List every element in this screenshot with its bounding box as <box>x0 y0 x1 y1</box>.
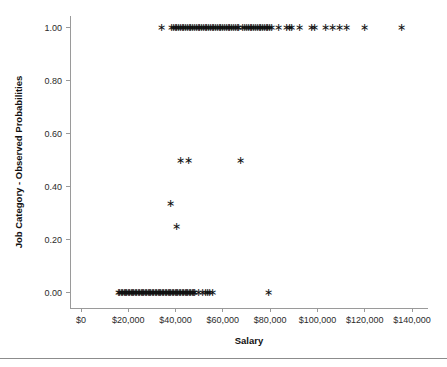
x-tick-label: $80,000 <box>254 315 287 325</box>
y-tick-label: 0.00 <box>44 288 62 298</box>
y-tick-label: 0.60 <box>44 129 62 139</box>
y-tick-label: 1.00 <box>44 23 62 33</box>
x-tick-label: $40,000 <box>159 315 192 325</box>
data-point: ∗ <box>310 21 319 33</box>
data-point: ∗ <box>360 21 369 33</box>
data-point: ∗ <box>184 154 193 166</box>
data-point: ∗ <box>295 21 304 33</box>
y-tick-label: 0.40 <box>44 182 62 192</box>
x-tick-label: $140,000 <box>393 315 431 325</box>
x-tick-label: $120,000 <box>346 315 384 325</box>
data-points-layer: ∗∗∗∗∗∗∗∗∗∗∗∗∗∗∗∗∗∗∗∗∗∗∗∗∗∗∗∗∗∗∗∗∗∗∗∗∗∗∗∗… <box>114 21 406 298</box>
x-axis-ticks: $0$20,000$40,000$60,000$80,000$100,000$1… <box>76 308 431 325</box>
data-point: ∗ <box>264 286 273 298</box>
y-axis-ticks: 0.000.200.400.600.801.00 <box>44 23 70 298</box>
data-point: ∗ <box>397 21 406 33</box>
y-tick-label: 0.80 <box>44 76 62 86</box>
x-tick-label: $0 <box>76 315 86 325</box>
x-tick-label: $60,000 <box>207 315 240 325</box>
data-point: ∗ <box>342 21 351 33</box>
data-point: ∗ <box>166 197 175 209</box>
chart-figure: 0.000.200.400.600.801.00 $0$20,000$40,00… <box>0 0 447 367</box>
footer-divider <box>0 358 447 359</box>
data-point: ∗ <box>157 21 166 33</box>
scatter-plot: 0.000.200.400.600.801.00 $0$20,000$40,00… <box>0 0 447 367</box>
y-tick-label: 0.20 <box>44 235 62 245</box>
x-tick-label: $20,000 <box>112 315 145 325</box>
y-axis-title: Job Category - Observed Probabilities <box>13 76 24 249</box>
x-axis-title: Salary <box>235 335 264 346</box>
data-point: ∗ <box>172 220 181 232</box>
plot-axes <box>70 16 428 308</box>
data-point: ∗ <box>236 154 245 166</box>
x-tick-label: $100,000 <box>299 315 337 325</box>
data-point: ∗ <box>208 286 217 298</box>
